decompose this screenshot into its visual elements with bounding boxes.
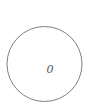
diagram-canvas: 0 (0, 0, 87, 109)
node-label: 0 (47, 63, 54, 76)
node-circle (7, 27, 82, 102)
